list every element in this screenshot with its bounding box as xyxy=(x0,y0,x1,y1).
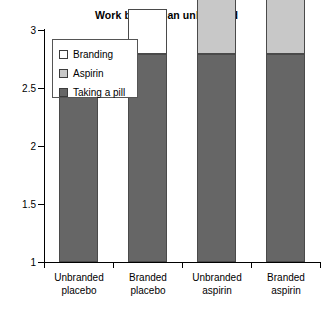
y-axis-tick xyxy=(38,146,44,147)
bar-segment-aspirin xyxy=(266,0,305,54)
y-axis-line xyxy=(44,29,45,263)
y-axis-tick-label: 1.5 xyxy=(2,199,36,210)
x-axis-tick xyxy=(182,262,183,268)
x-axis-label-line: Branded xyxy=(241,272,331,285)
chart-legend: BrandingAspirinTaking a pill xyxy=(52,39,138,98)
x-axis-tick xyxy=(251,262,252,268)
bar-segment-taking-a-pill xyxy=(197,54,236,262)
x-axis-tick xyxy=(320,262,321,268)
legend-swatch-icon xyxy=(59,88,68,97)
y-axis-tick xyxy=(38,204,44,205)
legend-item-branding[interactable]: Branding xyxy=(59,48,113,60)
legend-swatch-icon xyxy=(59,50,68,59)
legend-item-label: Taking a pill xyxy=(73,87,125,98)
bar-branded-aspirin xyxy=(266,30,305,262)
legend-swatch-icon xyxy=(59,69,68,78)
y-axis-tick-label: 2.5 xyxy=(2,83,36,94)
x-axis-tick xyxy=(44,262,45,268)
y-axis-tick-label: 3 xyxy=(2,25,36,36)
bar-segment-aspirin xyxy=(197,0,236,54)
y-axis-tick-label: 1 xyxy=(2,257,36,268)
y-axis-tick xyxy=(38,30,44,31)
x-axis-tick xyxy=(113,262,114,268)
x-axis-label: Brandedaspirin xyxy=(241,272,331,297)
legend-item-label: Branding xyxy=(73,49,113,60)
bar-segment-taking-a-pill xyxy=(266,54,305,262)
chart-screenshot: Work better than unbranded 11.522.53 Unb… xyxy=(0,0,333,311)
y-axis-tick-label: 2 xyxy=(2,141,36,152)
legend-item-label: Aspirin xyxy=(73,68,104,79)
y-axis-tick xyxy=(38,88,44,89)
legend-item-aspirin[interactable]: Aspirin xyxy=(59,67,104,79)
legend-item-taking-a-pill[interactable]: Taking a pill xyxy=(59,86,125,98)
bar-unbranded-aspirin xyxy=(197,30,236,262)
x-axis-label-line: aspirin xyxy=(241,285,331,298)
